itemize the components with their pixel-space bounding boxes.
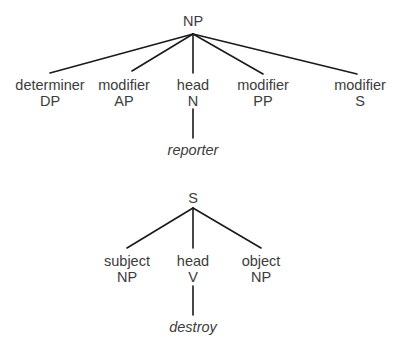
node-role-label: modifier [98, 77, 150, 93]
np-root-label: NP [183, 13, 203, 29]
s-node-head: head V [177, 253, 209, 285]
np-tree: NP determiner DP modifier AP head N modi… [15, 13, 386, 158]
np-edge-determiner [50, 34, 193, 73]
node-category-label: N [188, 93, 198, 109]
node-category-label: NP [117, 269, 137, 285]
syntax-tree-diagram: NP determiner DP modifier AP head N modi… [0, 0, 400, 343]
np-node-determiner: determiner DP [15, 77, 84, 109]
node-category-label: DP [40, 93, 60, 109]
s-node-subject: subject NP [104, 253, 150, 285]
node-category-label: S [355, 93, 365, 109]
s-edge-subject [127, 208, 193, 248]
node-role-label: object [242, 253, 281, 269]
s-edge-object [193, 208, 261, 248]
np-edge-modifier-ap [132, 34, 193, 71]
node-category-label: V [188, 269, 198, 285]
node-role-label: subject [104, 253, 150, 269]
np-node-head: head N [177, 77, 209, 109]
node-role-label: determiner [15, 77, 84, 93]
node-role-label: head [177, 77, 209, 93]
np-edge-modifier-s [193, 34, 357, 74]
node-category-label: NP [251, 269, 271, 285]
s-tree: S subject NP head V object NP destroy [104, 190, 280, 335]
s-head-word: destroy [169, 319, 217, 335]
node-category-label: PP [253, 93, 272, 109]
np-node-modifier-ap: modifier AP [98, 77, 150, 109]
node-role-label: head [177, 253, 209, 269]
np-node-modifier-pp: modifier PP [237, 77, 289, 109]
s-node-object: object NP [242, 253, 281, 285]
node-role-label: modifier [237, 77, 289, 93]
np-edge-modifier-pp [193, 34, 263, 74]
s-root-label: S [188, 190, 198, 206]
np-node-modifier-s: modifier S [334, 77, 386, 109]
node-category-label: AP [114, 93, 133, 109]
np-head-word: reporter [168, 142, 220, 158]
node-role-label: modifier [334, 77, 386, 93]
